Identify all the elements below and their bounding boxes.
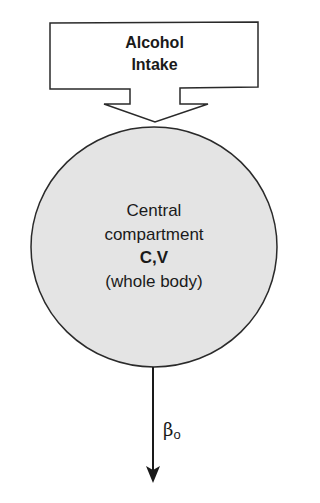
elimination-rate-label: βo	[163, 419, 181, 442]
compartment-label-line1: Central	[40, 199, 268, 223]
input-label-line2: Intake	[52, 54, 257, 76]
input-label-line1: Alcohol	[52, 32, 257, 54]
input-label: Alcohol Intake	[52, 32, 257, 76]
elimination-rate-subscript: o	[173, 427, 180, 442]
compartment-label-line4: (whole body)	[40, 270, 268, 294]
elimination-rate-symbol: β	[163, 419, 173, 440]
compartment-parameters: C,V	[40, 246, 268, 270]
compartment-label: Central compartment C,V (whole body)	[40, 199, 268, 293]
compartment-label-line2: compartment	[40, 223, 268, 247]
